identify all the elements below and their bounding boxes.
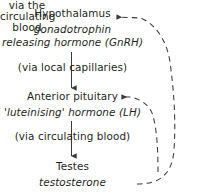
hormone-feedback-diagram: Hypothalamus gonadotrophin releasing hor… [0, 0, 220, 194]
node-hormone-hypothalamus-line1: gonadotrophin [0, 24, 145, 35]
node-hormone-testes-line1: testosterone [0, 177, 145, 188]
node-label-hypothalamus: Hypothalamus [0, 8, 145, 19]
node-hormone-hypothalamus-line2: releasing hormone (GnRH) [0, 37, 145, 48]
node-label-anterior-pituitary: Anterior pituitary [0, 91, 145, 102]
node-hormone-anterior-pituitary-line1: 'luteinising' hormone (LH) [0, 107, 145, 118]
node-label-testes: Testes [0, 161, 145, 172]
edge-label-via-circulating-blood: (via circulating blood) [0, 131, 145, 142]
edge-label-via-local-capillaries: (via local capillaries) [0, 62, 145, 73]
